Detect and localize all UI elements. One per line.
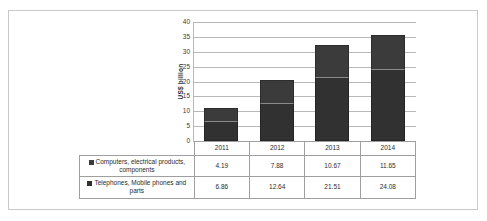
table-cell-value: 24.08 — [360, 177, 415, 198]
table-cell-value: 11.65 — [360, 156, 415, 177]
table-cell-value: 4.19 — [194, 156, 249, 177]
table-cell-value: 12.64 — [250, 177, 305, 198]
table-header-year: 2011 — [194, 142, 249, 156]
plot-area: 0510152025303540 — [193, 22, 416, 141]
table-cell-value: 7.88 — [250, 156, 305, 177]
bar-2014 — [371, 35, 405, 141]
legend-item-label[interactable]: Computers, electrical products, componen… — [80, 156, 195, 177]
gridline — [193, 22, 416, 23]
y-axis-tick-label: 20 — [183, 78, 190, 85]
legend-square-marker-icon — [87, 181, 92, 186]
bar-segment-computers — [260, 80, 294, 103]
y-axis-tick-label: 30 — [183, 49, 190, 56]
table-row: Computers, electrical products, componen… — [80, 156, 416, 177]
y-axis-tick-label: 15 — [183, 93, 190, 100]
chart-data-table: 2011201220132014Computers, electrical pr… — [79, 141, 416, 199]
y-axis-tick-label: 25 — [183, 63, 190, 70]
y-axis-tick-label: 40 — [183, 19, 190, 26]
bar-segment-telephones — [371, 69, 405, 141]
table-row: Telephones, Mobile phones and parts6.861… — [80, 177, 416, 198]
chart-frame: US$ billion 0510152025303540 20112012201… — [8, 10, 478, 210]
table-cell-value: 10.67 — [305, 156, 360, 177]
y-axis-tick-label: 35 — [183, 34, 190, 41]
legend-square-marker-icon — [89, 160, 94, 165]
bar-2013 — [315, 45, 349, 141]
table-header-year: 2013 — [305, 142, 360, 156]
bar-segment-computers — [371, 35, 405, 70]
table-cell-value: 21.51 — [305, 177, 360, 198]
bar-segment-telephones — [260, 103, 294, 141]
bar-segment-telephones — [204, 121, 238, 141]
y-axis-tick-label: 5 — [186, 123, 190, 130]
table-header-year: 2012 — [250, 142, 305, 156]
table-header-year: 2014 — [360, 142, 415, 156]
bar-segment-telephones — [315, 77, 349, 141]
table-cell-value: 6.86 — [194, 177, 249, 198]
table-header-row: 2011201220132014 — [80, 142, 416, 156]
bar-segment-computers — [315, 45, 349, 77]
legend-item-label[interactable]: Telephones, Mobile phones and parts — [80, 177, 195, 198]
bar-2012 — [260, 80, 294, 141]
y-axis-tick-label: 10 — [183, 108, 190, 115]
bar-2011 — [204, 108, 238, 141]
bar-segment-computers — [204, 108, 238, 120]
table-corner-cell — [80, 142, 195, 156]
